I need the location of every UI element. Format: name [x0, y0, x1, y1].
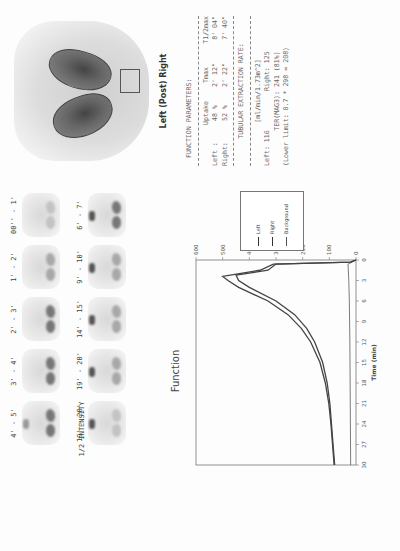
frame-time-label: 6' - 7'	[76, 185, 84, 245]
params-row-right: Right: 52 % 2' 22" 7' 40"	[221, 16, 231, 166]
header-tmax: Tmax	[202, 56, 212, 94]
frame-time-label: 3' - 4'	[10, 341, 18, 401]
summed-kidney-image: Left (Post) Right	[14, 21, 149, 161]
x-tick-label: 3	[361, 278, 367, 282]
y-tick-label: 0	[353, 251, 359, 255]
x-tick-label: 18	[361, 379, 367, 386]
left-kidney-blob	[46, 268, 55, 281]
x-tick-label: 27	[361, 441, 367, 448]
frame-time-label: 00'' - 1'	[10, 185, 18, 245]
x-tick-label: 9	[361, 319, 367, 323]
y-tick-label: 100	[326, 245, 332, 255]
left-kidney-blob	[46, 216, 55, 229]
left-kidney-blob	[112, 268, 121, 281]
x-tick-label: 15	[361, 359, 367, 366]
y-tick-label: 600	[193, 245, 199, 255]
y-tick-label: 500	[220, 245, 226, 255]
legend-item-background: Background	[283, 204, 289, 246]
legend-item-right: Right	[269, 221, 275, 246]
renogram-report-page: 00'' - 1'1' - 2'2' - 3'3' - 4'4' - 5'6' …	[0, 0, 400, 551]
params-row-left: Left : 48 % 2' 12" 8' 04"	[211, 16, 221, 166]
frame-thumbnail	[22, 193, 60, 237]
left-kidney-blob	[112, 216, 121, 229]
frame-time-label: 14' - 15'	[76, 289, 84, 349]
bladder-blob	[89, 367, 95, 377]
frame-time-label: 1' - 2'	[10, 237, 18, 297]
background-roi	[120, 69, 140, 93]
bladder-blob	[89, 263, 95, 273]
x-tick-label: 6	[361, 299, 367, 303]
frame-time-label: 9' - 10'	[76, 237, 84, 297]
frame-thumbnail	[88, 401, 126, 445]
left-kidney-blob	[46, 372, 55, 385]
x-axis-label: Time (min)	[370, 344, 377, 381]
legend-item-left: Left	[255, 225, 261, 246]
frame-time-label: 4' - 5'	[10, 393, 18, 453]
ter-right: Right: 125	[263, 16, 273, 91]
left-kidney-blob	[112, 424, 121, 437]
bladder-blob	[23, 419, 29, 429]
x-tick-label: 21	[361, 400, 367, 407]
legend-swatch	[258, 237, 259, 246]
half-intensity-label: 1/2 INTENSITY	[78, 399, 86, 459]
bladder-blob	[89, 315, 95, 325]
frame-thumbnail	[22, 245, 60, 289]
chart-legend: Left Right Background	[240, 191, 304, 251]
bladder-blob	[89, 419, 95, 429]
image-caption: Left (Post) Right	[159, 21, 168, 161]
dynamic-frames-grid: 00'' - 1'1' - 2'2' - 3'3' - 4'4' - 5'6' …	[18, 181, 158, 451]
frame-thumbnail	[22, 297, 60, 341]
left-kidney-blob	[46, 320, 55, 333]
divider	[233, 16, 234, 166]
frame-image	[22, 349, 60, 393]
frame-image	[22, 297, 60, 341]
series-left-line	[236, 260, 356, 465]
function-parameters-panel: FUNCTION PARAMETERS: Uptake Tmax T1/2max…	[185, 16, 292, 166]
params-header-row: Uptake Tmax T1/2max	[202, 16, 212, 166]
chart-title: Function	[170, 341, 181, 401]
renogram-chart: 0100200300400500600036912151821242730Tim…	[186, 245, 386, 495]
frame-thumbnail	[88, 349, 126, 393]
frame-thumbnail	[22, 349, 60, 393]
left-kidney-blob	[46, 424, 55, 437]
frame-image	[22, 245, 60, 289]
x-tick-label: 24	[361, 420, 367, 427]
frame-thumbnail	[88, 297, 126, 341]
x-tick-label: 30	[361, 461, 367, 468]
header-uptake: Uptake	[202, 94, 212, 132]
header-thalf: T1/2max	[202, 16, 212, 56]
frame-time-label: 19' - 20'	[76, 341, 84, 401]
ter-unit: [ml/min/1.73m^2]	[254, 16, 264, 166]
x-tick-label: 0	[361, 258, 367, 262]
legend-swatch	[272, 237, 273, 246]
params-title: FUNCTION PARAMETERS:	[185, 16, 195, 166]
left-kidney-blob	[112, 372, 121, 385]
ter-lower-limit: (Lower limit: 0.7 * 298 = 208)	[282, 16, 292, 166]
ter-values-row: Left: 116 Right: 125	[263, 16, 273, 166]
bladder-blob	[89, 211, 95, 221]
x-tick-label: 12	[361, 339, 367, 346]
legend-swatch	[286, 237, 287, 246]
frame-thumbnail	[88, 245, 126, 289]
series-background-line	[348, 260, 356, 465]
ter-mag3: TER(MAG3): 241 (81%)	[273, 16, 283, 166]
ter-left: Left: 116	[263, 91, 273, 166]
divider	[198, 16, 199, 166]
left-kidney-blob	[112, 320, 121, 333]
ter-title: TUBULAR EXTRACTION RATE:	[237, 16, 247, 166]
frame-time-label: 2' - 3'	[10, 289, 18, 349]
frame-thumbnail	[88, 193, 126, 237]
series-right-line	[223, 260, 356, 465]
frame-image	[22, 193, 60, 237]
frame-thumbnail	[22, 401, 60, 445]
divider	[250, 16, 251, 166]
